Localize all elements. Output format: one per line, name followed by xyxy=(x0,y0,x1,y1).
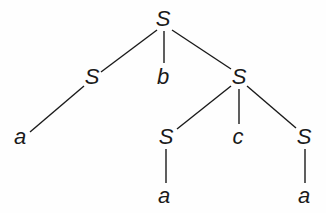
edge-root-to-left-s xyxy=(101,30,157,72)
node-leaf-a-middle: a xyxy=(158,185,170,207)
edge-right-s-to-s xyxy=(177,86,231,129)
tree-edges xyxy=(0,0,326,213)
node-leaf-a-right: a xyxy=(298,185,310,207)
node-inner-s-left: S xyxy=(159,126,174,148)
node-b: b xyxy=(157,66,169,88)
node-inner-s-right: S xyxy=(297,126,312,148)
edge-root-to-right-s xyxy=(172,30,231,69)
parse-tree-diagram: S S b S a S c S a a xyxy=(0,0,326,213)
node-root-s: S xyxy=(156,8,171,30)
edge-right-s-to-s2 xyxy=(247,86,296,128)
node-left-s: S xyxy=(85,66,100,88)
node-c: c xyxy=(233,126,244,148)
node-right-s: S xyxy=(232,66,247,88)
node-leaf-a-left: a xyxy=(14,126,26,148)
edge-left-s-to-a xyxy=(30,86,84,132)
